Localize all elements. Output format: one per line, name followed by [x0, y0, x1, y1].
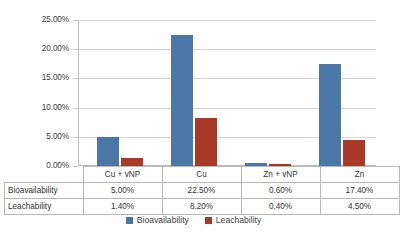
bar-bioavailability-cu-vnp[interactable] [97, 137, 119, 166]
chart-legend: Bioavailability Leachability [0, 216, 387, 225]
plot-area [78, 20, 375, 166]
y-tick-label: 25.00% [42, 16, 69, 24]
table-corner-cell [5, 167, 84, 183]
table-category-header: Zn + vNP [241, 167, 320, 183]
table-category-header: Cu [162, 167, 241, 183]
bar-bioavailability-cu[interactable] [171, 35, 193, 166]
table-row: Bioavailability 5.00% 22.50% 0.60% 17.40… [5, 183, 400, 199]
legend-swatch-icon [205, 217, 212, 224]
y-tick-label: 20.00% [42, 45, 69, 53]
table-row-categories: Cu + vNP Cu Zn + vNP Zn [5, 167, 400, 183]
legend-item-leachability[interactable]: Leachability [205, 216, 261, 225]
bar-bioavailability-zn[interactable] [319, 64, 341, 166]
y-tick-label: 5.00% [46, 133, 69, 141]
table-cell: 0.60% [241, 183, 320, 199]
bar-leachability-zn[interactable] [343, 140, 365, 166]
bars-layer [79, 20, 376, 166]
plot-wrapper: 25.00% 20.00% 15.00% 10.00% 5.00% 0.00% [0, 0, 387, 172]
table-row: Leachability 1.40% 8.20% 0.40% 4.50% [5, 199, 400, 215]
data-table: Cu + vNP Cu Zn + vNP Zn Bioavailability … [4, 166, 400, 215]
legend-label: Bioavailability [137, 216, 189, 225]
legend-item-bioavailability[interactable]: Bioavailability [126, 216, 189, 225]
table-cell: 0.40% [241, 199, 320, 215]
bar-leachability-cu[interactable] [195, 118, 217, 166]
table-row-label-leachability: Leachability [5, 199, 84, 215]
bar-leachability-cu-vnp[interactable] [121, 158, 143, 166]
legend-label: Leachability [216, 216, 261, 225]
y-tick-label: 10.00% [42, 104, 69, 112]
table-cell: 1.40% [83, 199, 162, 215]
table-category-header: Cu + vNP [83, 167, 162, 183]
table-cell: 5.00% [83, 183, 162, 199]
table-cell: 17.40% [320, 183, 399, 199]
legend-swatch-icon [126, 217, 133, 224]
table-cell: 22.50% [162, 183, 241, 199]
table-cell: 4.50% [320, 199, 399, 215]
table-row-label-bioavailability: Bioavailability [5, 183, 84, 199]
y-tick-label: 15.00% [42, 74, 69, 82]
table-category-header: Zn [320, 167, 399, 183]
table-cell: 8.20% [162, 199, 241, 215]
y-axis: 25.00% 20.00% 15.00% 10.00% 5.00% 0.00% [0, 0, 74, 172]
